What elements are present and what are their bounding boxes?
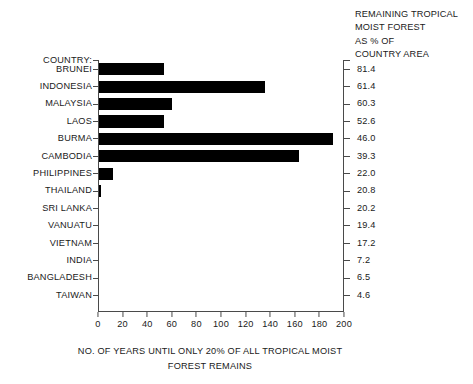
category-label: BANGLADESH bbox=[0, 269, 92, 286]
bar bbox=[99, 168, 113, 180]
bar-track bbox=[99, 235, 345, 252]
bar-track bbox=[99, 113, 345, 130]
category-label: BURMA bbox=[0, 130, 92, 147]
category-label: PHILIPPINES bbox=[0, 165, 92, 182]
x-axis-tick bbox=[319, 312, 320, 317]
chart-row: BANGLADESH6.5 bbox=[0, 269, 473, 286]
bar-track bbox=[99, 269, 345, 286]
secondary-value-label: 60.3 bbox=[357, 95, 376, 112]
chart-row: LAOS52.6 bbox=[0, 113, 473, 130]
secondary-value-label: 52.6 bbox=[357, 113, 376, 130]
x-axis-tick-label: 140 bbox=[262, 319, 278, 329]
bar bbox=[99, 98, 172, 110]
category-label: INDONESIA bbox=[0, 78, 92, 95]
secondary-value-label: 22.0 bbox=[357, 165, 376, 182]
secondary-value-label: 20.2 bbox=[357, 200, 376, 217]
secondary-value-label: 19.4 bbox=[357, 217, 376, 234]
x-axis-tick bbox=[220, 312, 221, 317]
x-axis-tick bbox=[147, 312, 148, 317]
chart-row: TAIWAN4.6 bbox=[0, 287, 473, 304]
secondary-axis-title-line-3: AS % OF bbox=[355, 35, 473, 48]
x-axis-tick-label: 20 bbox=[117, 319, 128, 329]
category-label: INDIA bbox=[0, 252, 92, 269]
chart-row: MALAYSIA60.3 bbox=[0, 95, 473, 112]
chart-caption: NO. OF YEARS UNTIL ONLY 20% OF ALL TROPI… bbox=[0, 344, 420, 373]
chart-row: PHILIPPINES22.0 bbox=[0, 165, 473, 182]
caption-line-2: FOREST REMAINS bbox=[0, 359, 420, 374]
bar-track bbox=[99, 182, 345, 199]
x-axis-tick-label: 120 bbox=[238, 319, 254, 329]
x-axis-tick-label: 60 bbox=[166, 319, 177, 329]
bar-track bbox=[99, 78, 345, 95]
chart-row: INDONESIA61.4 bbox=[0, 78, 473, 95]
chart-row: INDIA7.2 bbox=[0, 252, 473, 269]
bar-track bbox=[99, 217, 345, 234]
category-label: THAILAND bbox=[0, 182, 92, 199]
bar-track bbox=[99, 200, 345, 217]
x-axis-tick-label: 40 bbox=[142, 319, 153, 329]
bar bbox=[99, 150, 299, 162]
bar-track bbox=[99, 165, 345, 182]
x-axis-tick bbox=[294, 312, 295, 317]
category-label: LAOS bbox=[0, 113, 92, 130]
secondary-value-label: 46.0 bbox=[357, 130, 376, 147]
secondary-axis-title-line-1: REMAINING TROPICAL bbox=[355, 8, 473, 21]
secondary-value-label: 81.4 bbox=[357, 61, 376, 78]
x-axis-tick-label: 0 bbox=[95, 319, 100, 329]
x-axis-tick-label: 200 bbox=[336, 319, 352, 329]
chart-row: VIETNAM17.2 bbox=[0, 235, 473, 252]
secondary-value-label: 6.5 bbox=[357, 269, 370, 286]
secondary-value-label: 17.2 bbox=[357, 235, 376, 252]
bar-track bbox=[99, 252, 345, 269]
x-axis-tick-label: 80 bbox=[191, 319, 202, 329]
chart-row: CAMBODIA39.3 bbox=[0, 148, 473, 165]
x-axis-tick bbox=[122, 312, 123, 317]
secondary-axis-title-line-2: MOIST FOREST bbox=[355, 21, 473, 34]
x-axis-tick bbox=[97, 312, 98, 317]
bar bbox=[99, 115, 164, 127]
bar bbox=[99, 81, 265, 93]
caption-line-1: NO. OF YEARS UNTIL ONLY 20% OF ALL TROPI… bbox=[0, 344, 420, 359]
chart-container: REMAINING TROPICAL MOIST FOREST AS % OF … bbox=[0, 0, 473, 384]
category-label: MALAYSIA bbox=[0, 95, 92, 112]
bar-track bbox=[99, 287, 345, 304]
secondary-value-label: 39.3 bbox=[357, 148, 376, 165]
x-axis-tick bbox=[171, 312, 172, 317]
bar bbox=[99, 63, 164, 75]
x-axis-tick-label: 180 bbox=[311, 319, 327, 329]
bar-track bbox=[99, 61, 345, 78]
secondary-value-label: 7.2 bbox=[357, 252, 370, 269]
secondary-value-label: 4.6 bbox=[357, 287, 370, 304]
chart-row: VANUATU19.4 bbox=[0, 217, 473, 234]
category-label: CAMBODIA bbox=[0, 148, 92, 165]
category-label: TAIWAN bbox=[0, 287, 92, 304]
bar-track bbox=[99, 95, 345, 112]
x-axis-tick bbox=[343, 312, 344, 317]
chart-row: BURMA46.0 bbox=[0, 130, 473, 147]
bar-track bbox=[99, 130, 345, 147]
chart-row: SRI LANKA20.2 bbox=[0, 200, 473, 217]
category-label: BRUNEI bbox=[0, 61, 92, 78]
secondary-value-label: 20.8 bbox=[357, 182, 376, 199]
chart-row: BRUNEI81.4 bbox=[0, 61, 473, 78]
secondary-value-label: 61.4 bbox=[357, 78, 376, 95]
chart-row: THAILAND20.8 bbox=[0, 182, 473, 199]
category-label: VANUATU bbox=[0, 217, 92, 234]
bar bbox=[99, 185, 101, 197]
category-label: VIETNAM bbox=[0, 235, 92, 252]
x-axis-tick bbox=[245, 312, 246, 317]
x-axis-tick-label: 160 bbox=[287, 319, 303, 329]
x-axis-tick bbox=[270, 312, 271, 317]
bar-track bbox=[99, 148, 345, 165]
x-axis-tick-label: 100 bbox=[213, 319, 229, 329]
x-axis: 020406080100120140160180200 bbox=[98, 312, 344, 336]
bar bbox=[99, 133, 333, 145]
category-label: SRI LANKA bbox=[0, 200, 92, 217]
x-axis-tick bbox=[196, 312, 197, 317]
